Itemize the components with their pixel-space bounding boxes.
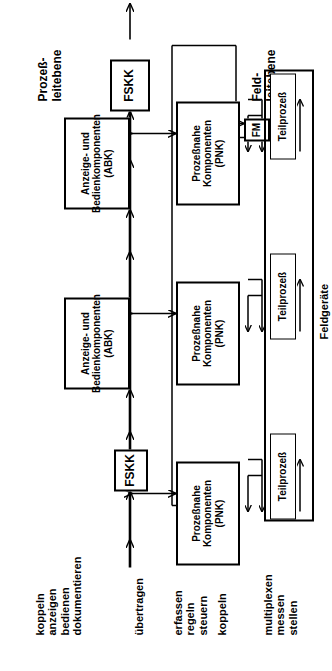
diagram-canvas: koppeln anzeigen bedienen dokumentieren … xyxy=(0,0,332,671)
node-label: FSKK xyxy=(124,454,137,487)
node-pnk-2[interactable]: Prozeßnahe Komponenten (PNK) xyxy=(176,281,240,385)
function-label: bedienen xyxy=(59,556,71,635)
node-label-line: (PNK) xyxy=(214,499,225,527)
function-label: regeln xyxy=(184,590,196,635)
group-feldgeraete-label: Feldgeräte xyxy=(318,283,330,339)
node-fskk-bottom[interactable]: FSKK xyxy=(110,59,150,111)
function-label: anzeigen xyxy=(46,556,58,635)
group-feldgeraete xyxy=(264,69,314,521)
node-label-line: (ABK) xyxy=(103,329,114,357)
function-group-field-labels: multiplexen messen stellen xyxy=(262,574,299,635)
node-label-line: Komponenten xyxy=(202,479,213,546)
function-group-bus-labels: übertragen xyxy=(133,578,145,635)
node-label-line: Anzeige- und xyxy=(80,312,91,375)
level-label-line: Feld- xyxy=(251,49,265,101)
function-label: steuern xyxy=(197,590,209,635)
node-abk-2[interactable]: Anzeige- und Bedienkomponenten (ABK) xyxy=(64,117,130,209)
function-group-pnk-labels: erfassen regeln steuern xyxy=(172,590,209,635)
node-label-line: (PNK) xyxy=(214,139,225,167)
node-label-line: Anzeige- und xyxy=(80,132,91,195)
level-label-line: leitebene xyxy=(51,49,65,101)
function-group-abk-labels: koppeln anzeigen bedienen dokumentieren xyxy=(34,556,84,635)
function-label: dokumentieren xyxy=(71,556,83,635)
node-pnk-1[interactable]: Prozeßnahe Komponenten (PNK) xyxy=(176,461,240,565)
node-label-line: (PNK) xyxy=(214,319,225,347)
function-label: messen xyxy=(274,574,286,635)
node-label-line: Bedienkomponenten xyxy=(91,294,102,393)
level-label-line: Prozeß- xyxy=(37,49,51,101)
function-label: koppeln xyxy=(216,593,228,635)
node-label: FM xyxy=(251,122,262,136)
node-label-line: Komponenten xyxy=(202,119,213,186)
node-label-line: (ABK) xyxy=(103,149,114,177)
level-label-process: Prozeß- leitebene xyxy=(37,49,64,101)
function-label: multiplexen xyxy=(262,574,274,635)
node-label-line: Prozeßnahe xyxy=(191,125,202,182)
node-fskk-top[interactable]: FSKK xyxy=(114,449,148,491)
diagram-rotated-content: koppeln anzeigen bedienen dokumentieren … xyxy=(0,0,332,671)
function-label: koppeln xyxy=(34,556,46,635)
node-label-line: Prozeßnahe xyxy=(191,305,202,362)
node-pnk-3[interactable]: Prozeßnahe Komponenten (PNK) xyxy=(176,101,240,205)
node-label-line: Bedienkomponenten xyxy=(91,114,102,213)
node-label-line: Prozeßnahe xyxy=(191,485,202,542)
function-label: übertragen xyxy=(133,578,145,635)
node-label-line: Komponenten xyxy=(202,299,213,366)
node-abk-1[interactable]: Anzeige- und Bedienkomponenten (ABK) xyxy=(64,297,130,389)
function-label: stellen xyxy=(287,574,299,635)
node-label: FSKK xyxy=(123,69,136,102)
function-label: erfassen xyxy=(172,590,184,635)
function-group-coupling-labels: koppeln xyxy=(216,593,228,635)
